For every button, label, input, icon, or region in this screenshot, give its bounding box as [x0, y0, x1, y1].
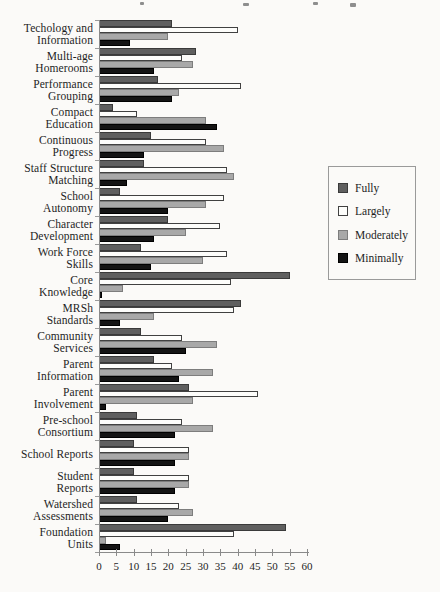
y-axis-tick — [95, 468, 99, 469]
y-axis-tick — [95, 356, 99, 357]
category-label-line: Autonomy — [43, 202, 93, 215]
x-axis-tick — [134, 549, 135, 556]
bar-minimally-watershed-assessments — [99, 516, 168, 523]
legend-label: Largely — [355, 205, 391, 217]
category-label-line: Consortium — [38, 426, 93, 439]
x-axis-tick — [290, 549, 291, 556]
scanned-bar-chart-page: Techology andInformationMulti-ageHomeroo… — [0, 0, 440, 592]
category-label-line: Progress — [53, 146, 93, 159]
category-label-line: Assessments — [33, 510, 93, 523]
bar-minimally-compact-education — [99, 124, 217, 131]
category-label-line: Parent — [63, 358, 93, 371]
bar-minimally-performance-grouping — [99, 96, 172, 103]
category-label-student-reports: StudentReports — [0, 468, 93, 496]
category-label-line: Performance — [33, 78, 93, 91]
category-label-line: Education — [45, 118, 93, 131]
legend-swatch-largely — [338, 206, 348, 216]
category-label-line: Homerooms — [35, 62, 93, 75]
category-label-techology-and-information: Techology andInformation — [0, 20, 93, 48]
x-axis-tick — [255, 549, 256, 556]
category-label-line: Parent — [63, 386, 93, 399]
y-axis-tick — [95, 524, 99, 525]
x-axis-tick — [203, 549, 204, 556]
category-label-line: Grouping — [48, 90, 93, 103]
category-label-line: Character — [47, 218, 93, 231]
category-label-line: School — [60, 190, 93, 203]
category-label-school-autonomy: SchoolAutonomy — [0, 188, 93, 216]
category-label-line: Information — [37, 370, 93, 383]
category-label-line: Services — [53, 342, 93, 355]
category-label-line: Involvement — [34, 398, 93, 411]
y-axis-line — [99, 20, 100, 553]
category-label-line: Techology and — [24, 22, 93, 35]
bar-minimally-character-development — [99, 236, 154, 243]
title-fragment — [313, 2, 318, 5]
legend-item-moderately: Moderately — [338, 229, 415, 241]
x-axis-line — [99, 552, 309, 553]
y-axis-tick — [95, 188, 99, 189]
category-label-continuous-progress: ContinuousProgress — [0, 132, 93, 160]
category-label-line: School Reports — [21, 448, 93, 461]
y-axis-tick — [95, 384, 99, 385]
category-label-line: Standards — [47, 314, 93, 327]
legend: FullyLargelyModeratelyMinimally — [328, 166, 416, 280]
category-label-line: Community — [37, 330, 93, 343]
category-label-compact-education: CompactEducation — [0, 104, 93, 132]
y-axis-tick — [95, 328, 99, 329]
category-label-parent-involvement: ParentInvolvement — [0, 384, 93, 412]
x-axis-tick — [151, 549, 152, 556]
y-axis-tick — [95, 160, 99, 161]
bar-minimally-student-reports — [99, 488, 175, 495]
y-axis-tick — [95, 76, 99, 77]
y-axis-tick — [95, 272, 99, 273]
bar-moderately-parent-involvement — [99, 397, 193, 404]
category-label-line: Multi-age — [47, 50, 93, 63]
x-axis-tick — [272, 549, 273, 556]
category-label-character-development: CharacterDevelopment — [0, 216, 93, 244]
x-axis-tick — [99, 549, 100, 556]
category-label-watershed-assessments: WatershedAssessments — [0, 496, 93, 524]
category-label-parent-information: ParentInformation — [0, 356, 93, 384]
bar-minimally-techology-and-information — [99, 40, 130, 47]
category-label-community-services: CommunityServices — [0, 328, 93, 356]
category-label-line: Work Force — [38, 246, 93, 259]
bar-minimally-work-force-skills — [99, 264, 151, 271]
category-label-line: Continuous — [39, 134, 93, 147]
x-axis-tick — [116, 549, 117, 556]
y-axis-tick — [95, 216, 99, 217]
legend-item-minimally: Minimally — [338, 252, 415, 264]
legend-swatch-minimally — [338, 253, 348, 263]
bar-minimally-multi-age-homerooms — [99, 68, 154, 75]
category-label-line: Knowledge — [39, 286, 93, 299]
title-fragment — [140, 2, 144, 5]
bar-minimally-parent-information — [99, 376, 179, 383]
legend-label: Minimally — [355, 252, 404, 264]
bar-minimally-parent-involvement — [99, 404, 106, 411]
y-axis-tick — [95, 48, 99, 49]
title-fragment — [350, 3, 356, 7]
category-label-line: Core — [70, 274, 93, 287]
category-label-work-force-skills: Work ForceSkills — [0, 244, 93, 272]
bar-minimally-community-services — [99, 348, 186, 355]
x-axis-tick — [238, 549, 239, 556]
bar-minimally-pre-school-consortium — [99, 432, 175, 439]
title-fragment — [243, 3, 249, 6]
category-label-core-knowledge: CoreKnowledge — [0, 272, 93, 300]
category-label-line: Development — [30, 230, 93, 243]
category-label-line: Skills — [66, 258, 93, 271]
category-label-line: Matching — [48, 174, 93, 187]
bar-minimally-staff-structure-matching — [99, 180, 127, 187]
bar-minimally-school-reports — [99, 460, 175, 467]
category-label-line: Units — [68, 538, 93, 551]
legend-item-largely: Largely — [338, 205, 415, 217]
category-label-foundation-units: FoundationUnits — [0, 524, 93, 552]
category-label-line: Student — [57, 470, 93, 483]
y-axis-tick — [95, 440, 99, 441]
legend-swatch-fully — [338, 183, 348, 193]
y-axis-tick — [95, 20, 99, 21]
y-axis-tick — [95, 300, 99, 301]
y-axis-tick — [95, 104, 99, 105]
x-axis-tick — [168, 549, 169, 556]
legend-swatch-moderately — [338, 230, 348, 240]
category-label-line: Information — [37, 34, 93, 47]
